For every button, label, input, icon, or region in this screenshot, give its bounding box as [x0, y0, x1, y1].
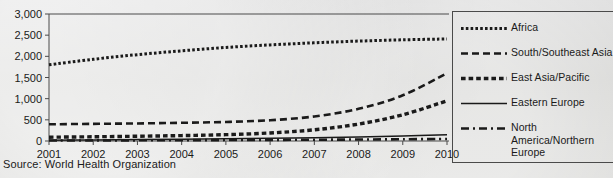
series-line	[49, 39, 447, 65]
legend-label: South/Southeast Asia	[507, 46, 612, 59]
legend-line-sample	[461, 122, 507, 135]
y-axis-tick-label: 0	[36, 135, 42, 147]
legend-item[interactable]: North America/Northern Europe	[453, 121, 613, 159]
legend-line-sample	[461, 72, 507, 85]
y-axis-tick-label: 3,000	[14, 8, 42, 20]
legend-label: Africa	[507, 21, 538, 34]
x-axis-tick-label: 2007	[302, 148, 326, 160]
legend-line-sample	[461, 97, 507, 110]
y-axis-tick-label: 1,500	[14, 72, 42, 84]
chart-legend: AfricaSouth/Southeast AsiaEast Asia/Paci…	[452, 11, 613, 163]
series-line	[49, 139, 447, 141]
legend-line-sample	[461, 47, 507, 60]
x-axis-tick-label: 2009	[391, 148, 415, 160]
x-axis-tick-label: 2005	[214, 148, 238, 160]
y-axis-tick-label: 1,000	[14, 93, 42, 105]
series-line	[49, 73, 447, 124]
legend-label: North America/Northern Europe	[507, 121, 613, 159]
legend-label: East Asia/Pacific	[507, 71, 589, 84]
legend-item[interactable]: Africa	[453, 21, 613, 39]
legend-item[interactable]: Eastern Europe	[453, 96, 613, 114]
y-axis-tick-label: 2,500	[14, 29, 42, 41]
y-axis-tick-label: 2,000	[14, 50, 42, 62]
x-axis-tick-label: 2008	[346, 148, 370, 160]
legend-line-sample	[461, 22, 507, 35]
legend-label: Eastern Europe	[507, 96, 585, 109]
source-caption: Source: World Health Organization	[3, 158, 176, 170]
x-axis-tick-label: 2006	[258, 148, 282, 160]
legend-item[interactable]: South/Southeast Asia	[453, 46, 613, 64]
y-axis-tick-label: 500	[24, 114, 42, 126]
series-line	[49, 101, 447, 137]
legend-item[interactable]: East Asia/Pacific	[453, 71, 613, 89]
